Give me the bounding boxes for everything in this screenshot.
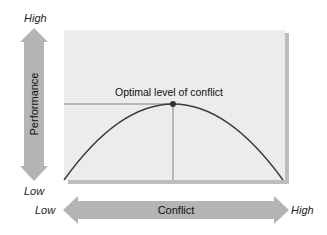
conflict-axis-label: Conflict	[158, 204, 195, 216]
x-axis-high-label: High	[291, 204, 314, 216]
y-axis-low-label: Low	[24, 185, 44, 197]
diagram-graphics	[0, 0, 327, 235]
x-axis-low-label: Low	[35, 204, 55, 216]
performance-axis-label: Performance	[28, 73, 40, 136]
optimal-point	[170, 101, 176, 107]
y-axis-high-label: High	[24, 12, 47, 24]
optimal-conflict-annotation: Optimal level of conflict	[115, 86, 223, 98]
